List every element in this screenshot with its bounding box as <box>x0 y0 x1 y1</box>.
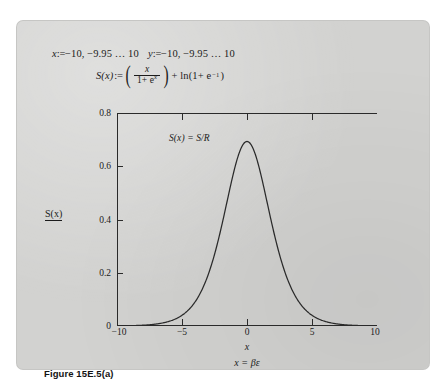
figure-page: x:=−10, −9.95 … 10 y:=−10, −9.95 … 10 S(… <box>0 0 446 388</box>
y-tick-label-0.6: 0.6 <box>99 161 111 171</box>
x-tick-label--10: −10 <box>112 327 127 337</box>
function-lhs: S(x) <box>96 70 113 81</box>
x-tick-label-5: 5 <box>310 327 315 337</box>
denominator-base: 1+ e <box>137 75 154 85</box>
range-x-assign: := <box>57 48 65 59</box>
range-x-values: −10, −9.95 … 10 <box>65 48 139 59</box>
range-definition-y: y:=−10, −9.95 … 10 <box>148 48 235 59</box>
x-tick-label--5: −5 <box>177 327 187 337</box>
x-tick-label-10: 10 <box>370 327 380 337</box>
x-axis-subtitle: x = βε <box>234 357 260 368</box>
fraction-denominator: 1+ ex <box>134 75 160 86</box>
y-axis-title: S(x) <box>45 208 62 221</box>
curve-svg <box>117 113 377 326</box>
range-y-assign: := <box>153 48 161 59</box>
function-assign: := <box>114 70 122 81</box>
plot-area: S(x) 0.8 0.6 0.4 0.2 0 −10 −5 0 5 10 <box>117 113 377 326</box>
y-tick-label-0.2: 0.2 <box>99 268 111 278</box>
y-tick-label-0.8: 0.8 <box>99 108 111 118</box>
definition-tail-close: ) <box>220 70 224 81</box>
range-definition-x: x:=−10, −9.95 … 10 <box>52 48 139 59</box>
definition-tail: + ln(1+ e <box>172 70 212 81</box>
scanned-figure-card: x:=−10, −9.95 … 10 y:=−10, −9.95 … 10 S(… <box>17 21 429 369</box>
range-y-values: −10, −9.95 … 10 <box>161 48 235 59</box>
curve-annotation: S(x) = S/R <box>169 133 210 143</box>
x-axis-title: x <box>245 341 250 352</box>
y-tick-label-0.4: 0.4 <box>99 215 111 225</box>
data-curve <box>117 141 377 325</box>
fraction: x 1+ ex <box>134 65 160 86</box>
y-tick-label-0: 0 <box>106 321 111 331</box>
x-tick-label-0: 0 <box>245 327 250 337</box>
figure-caption: Figure 15E.5(a) <box>44 368 114 379</box>
function-definition: S(x) := ( x 1+ ex ) + ln(1+ e−1) <box>96 65 224 86</box>
denominator-exponent: x <box>154 73 157 80</box>
fraction-numerator: x <box>142 65 152 75</box>
